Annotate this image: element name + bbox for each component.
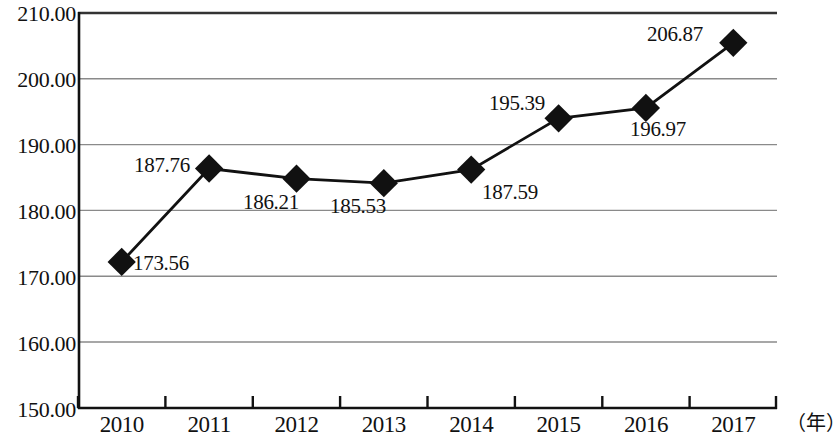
x-tick-label-2013: 2013 [340, 412, 427, 438]
x-tick-label-2014: 2014 [428, 412, 515, 438]
x-axis-ticks [78, 396, 690, 408]
point-label-2012: 186.21 [243, 192, 299, 213]
point-label-2011: 187.76 [134, 155, 190, 176]
x-tick-label-2015: 2015 [515, 412, 602, 438]
line-chart: 210.00 200.00 190.00 180.00 170.00 160.0… [0, 0, 838, 440]
x-tick-label-2016: 2016 [602, 412, 689, 438]
x-tick-label-2012: 2012 [253, 412, 340, 438]
data-line [122, 43, 734, 262]
plot-area [0, 0, 838, 440]
x-tick-label-2010: 2010 [78, 412, 165, 438]
point-label-2013: 185.53 [330, 196, 386, 217]
point-label-2017: 206.87 [647, 24, 703, 45]
point-label-2016: 196.97 [630, 119, 686, 140]
x-tick-label-2011: 2011 [165, 412, 252, 438]
x-tick-label-2017: 2017 [690, 412, 777, 438]
x-axis-tick-labels: 2010 2011 2012 2013 2014 2015 2016 2017 [78, 412, 777, 440]
point-label-2010: 173.56 [133, 253, 189, 274]
data-markers [108, 29, 748, 276]
x-axis-unit-label: （年） [786, 410, 838, 436]
point-label-2015: 195.39 [489, 93, 545, 114]
point-label-2014: 187.59 [482, 182, 538, 203]
